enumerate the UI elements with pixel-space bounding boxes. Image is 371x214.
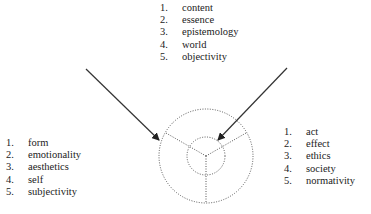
list-item: 2.essence — [160, 14, 239, 26]
list-item: 2.effect — [284, 138, 355, 150]
list-normative: 1.act 2.effect 3.ethics 4.society 5.norm… — [284, 126, 355, 187]
list-item: 1.form — [6, 137, 81, 149]
list-item: 5.subjectivity — [6, 186, 81, 198]
divider-right — [206, 133, 246, 156]
list-item: 5.objectivity — [160, 51, 239, 63]
divider-left — [166, 133, 206, 156]
list-item: 2.emotionality — [6, 149, 81, 161]
list-item: 4.world — [160, 39, 239, 51]
list-item: 1.act — [284, 126, 355, 138]
list-objective: 1.content 2.essence 3.epistemology 4.wor… — [160, 2, 239, 63]
list-item: 3.epistemology — [160, 26, 239, 38]
list-item: 5.normativity — [284, 175, 355, 187]
list-item: 4.society — [284, 163, 355, 175]
arrow-left — [86, 69, 159, 140]
list-subjective: 1.form 2.emotionality 3.aesthetics 4.sel… — [6, 137, 81, 198]
list-item: 4.self — [6, 174, 81, 186]
arrow-right — [218, 68, 287, 140]
list-item: 1.content — [160, 2, 239, 14]
list-item: 3.ethics — [284, 150, 355, 162]
list-item: 3.aesthetics — [6, 161, 81, 173]
